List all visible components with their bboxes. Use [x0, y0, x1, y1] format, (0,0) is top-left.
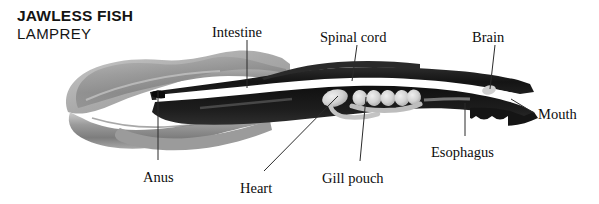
mouth-scallop-edge: [428, 116, 508, 126]
mouth-oral-disc: [470, 108, 538, 126]
label-brain: Brain: [472, 29, 504, 46]
gill-pouch: [406, 89, 422, 106]
internal-organs: [320, 87, 470, 118]
tail-fin-region: [66, 50, 290, 150]
spinal-cord-leader-line: [352, 45, 357, 81]
body-trunk: [150, 61, 534, 100]
page-title: JAWLESS FISH: [17, 8, 133, 24]
gill-pouch: [351, 89, 368, 107]
esophagus-duct: [330, 105, 378, 117]
page-subtitle: LAMPREY: [17, 26, 133, 41]
ventral-fin-lobe: [69, 112, 272, 149]
gill-pouch: [393, 89, 410, 107]
esophagus-channel: [424, 99, 470, 100]
dorsal-body-band: [150, 67, 534, 100]
figure-title-block: JAWLESS FISH LAMPREY: [17, 8, 133, 41]
brain-leader-line: [490, 45, 495, 89]
lower-body-cavity: [152, 86, 538, 130]
ventral-scallop-edge: [300, 120, 408, 130]
tail-mass-upper: [66, 50, 290, 113]
label-gill-pouch: Gill pouch: [322, 170, 384, 187]
label-anus: Anus: [143, 169, 174, 186]
anus-opening: [152, 91, 165, 99]
gill-pouch: [379, 89, 396, 107]
label-spinal-cord: Spinal cord: [320, 29, 386, 46]
brain-organ: [481, 84, 497, 96]
intestine-organ: [200, 99, 292, 108]
fin-highlight-streak: [86, 71, 220, 100]
label-heart: Heart: [240, 180, 272, 197]
label-mouth: Mouth: [538, 106, 577, 123]
mouth-leader-line: [511, 99, 534, 113]
heart-organ: [320, 87, 349, 110]
caudal-fin-tip: [115, 121, 272, 150]
heart-leader-line: [264, 96, 338, 171]
tail-inner-notch: [118, 88, 228, 114]
label-esophagus: Esophagus: [431, 144, 494, 161]
gill-pouch: [365, 89, 382, 107]
gill-connective-band: [352, 104, 420, 110]
diagram-canvas: JAWLESS FISH LAMPREY: [0, 0, 599, 204]
ventral-body-band: [152, 86, 534, 125]
dorsal-ridge: [262, 61, 420, 80]
spinal-cord-stripe: [156, 78, 520, 102]
spinal-cord: [156, 78, 520, 102]
dorsal-fin-upper: [76, 57, 286, 108]
label-intestine: Intestine: [212, 24, 262, 41]
gill-pouch-leader-line: [360, 97, 366, 161]
fin-shadow-streak: [92, 116, 238, 127]
